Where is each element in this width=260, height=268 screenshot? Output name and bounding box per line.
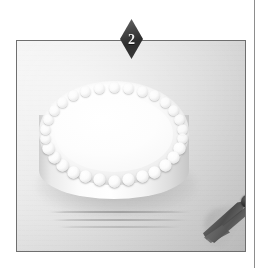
scallop-shell <box>40 124 50 134</box>
scallop-shell <box>67 166 79 178</box>
cake-base-seam <box>51 219 189 221</box>
scallop-shell <box>108 175 120 187</box>
scallop-shell <box>137 86 147 96</box>
scallop-shell <box>49 105 59 115</box>
step-number-badge: 2 <box>120 19 143 59</box>
cake-base-seam <box>47 211 193 213</box>
frosted-round-cake <box>33 81 193 216</box>
page-canvas: 2 <box>0 0 260 268</box>
figure-photo <box>17 41 245 251</box>
scallop-shell <box>136 171 148 183</box>
piping-tip <box>203 189 245 251</box>
scallop-shell <box>43 114 53 124</box>
scallop-shell <box>149 91 159 101</box>
step-number-label: 2 <box>120 19 143 59</box>
scallop-shell <box>68 91 78 101</box>
scalloped-piping-border <box>45 87 183 181</box>
scallop-shell <box>57 97 67 107</box>
cake-base-seam <box>57 226 183 228</box>
page-vertical-rule <box>254 0 255 268</box>
scallop-shell <box>109 82 119 92</box>
scallop-shell <box>81 86 91 96</box>
scallop-shell <box>94 83 104 93</box>
figure-photo-frame <box>16 40 246 252</box>
scallop-shell <box>174 114 184 124</box>
scallop-shell <box>42 142 54 154</box>
scallop-shell <box>123 83 133 93</box>
scallop-shell <box>159 159 171 171</box>
scallop-shell <box>148 166 160 178</box>
